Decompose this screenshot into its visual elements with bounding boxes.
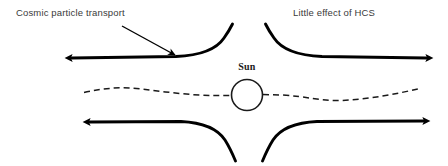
heliospheric-current-sheet-left [84, 88, 231, 96]
upper-right-field-line [266, 24, 427, 58]
heliospheric-current-sheet-right [263, 89, 420, 101]
sun-circle [232, 80, 263, 111]
cosmic-particle-transport-label: Cosmic particle transport [16, 7, 125, 18]
lower-left-field-line [90, 122, 236, 162]
diagram-canvas: Cosmic particle transport Little effect … [0, 0, 448, 166]
upper-left-field-line [72, 24, 233, 58]
annotation-pointer-arrow [122, 26, 175, 55]
lower-right-field-line [263, 121, 424, 161]
little-effect-of-hcs-label: Little effect of HCS [293, 7, 375, 18]
sun-label: Sun [238, 61, 256, 72]
heliosphere-diagram: Cosmic particle transport Little effect … [0, 0, 448, 166]
